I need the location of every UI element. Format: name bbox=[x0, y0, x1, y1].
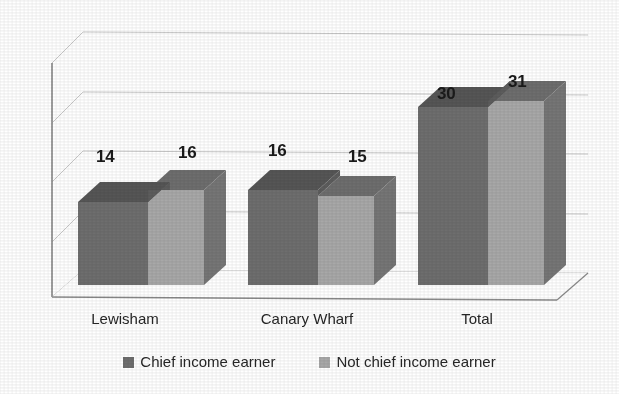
bar-front-face bbox=[488, 101, 544, 285]
chart-legend: Chief income earner Not chief income ear… bbox=[0, 353, 619, 370]
value-label-canary-wharf-chief: 16 bbox=[268, 141, 287, 161]
category-label-lewisham: Lewisham bbox=[60, 310, 190, 327]
3d-clustered-column-chart: 14 16 16 15 30 31 Lewisham Canary Wharf … bbox=[0, 0, 619, 394]
value-label-lewisham-not-chief: 16 bbox=[178, 143, 197, 163]
category-label-canary-wharf: Canary Wharf bbox=[232, 310, 382, 327]
value-label-lewisham-chief: 14 bbox=[96, 147, 115, 167]
bar-front-face bbox=[148, 190, 204, 285]
bar-side-face bbox=[204, 170, 226, 285]
bar-front-face bbox=[78, 202, 148, 285]
bar-canary-wharf-not-chief[interactable] bbox=[318, 176, 396, 285]
side-wall-edge-40 bbox=[52, 32, 83, 63]
value-label-total-chief: 30 bbox=[437, 84, 456, 104]
legend-item-not-chief-income-earner[interactable]: Not chief income earner bbox=[319, 353, 495, 370]
bar-front-face bbox=[318, 196, 374, 285]
bar-side-face bbox=[544, 81, 566, 285]
bar-front-face bbox=[248, 190, 318, 285]
bar-total-not-chief[interactable] bbox=[488, 81, 566, 285]
value-label-total-not-chief: 31 bbox=[508, 72, 527, 92]
legend-swatch-icon bbox=[319, 357, 330, 368]
legend-label-chief-income-earner: Chief income earner bbox=[140, 353, 275, 370]
legend-label-not-chief-income-earner: Not chief income earner bbox=[336, 353, 495, 370]
legend-item-chief-income-earner[interactable]: Chief income earner bbox=[123, 353, 275, 370]
side-wall-edge-30 bbox=[52, 92, 83, 123]
value-label-canary-wharf-not-chief: 15 bbox=[348, 147, 367, 167]
category-label-total: Total bbox=[412, 310, 542, 327]
legend-swatch-icon bbox=[123, 357, 134, 368]
side-wall-edge-20 bbox=[52, 151, 83, 182]
gridline-40 bbox=[83, 32, 588, 35]
chart-plot-area bbox=[0, 0, 619, 394]
bar-front-face bbox=[418, 107, 488, 285]
